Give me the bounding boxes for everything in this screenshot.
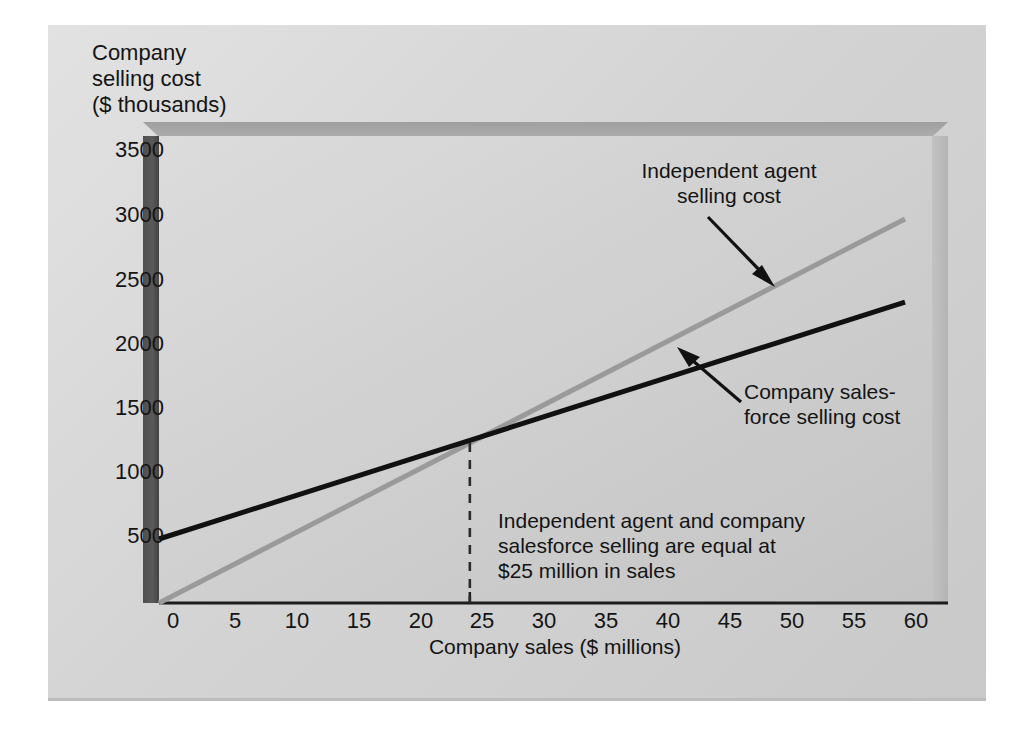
- x-tick-label: 40: [646, 608, 690, 634]
- x-tick-label: 45: [708, 608, 752, 634]
- figure-container: Company selling cost ($ thousands): [0, 0, 1017, 739]
- x-tick-label: 15: [337, 608, 381, 634]
- annotation-company-salesforce-label: Company sales- force selling cost: [744, 379, 974, 429]
- y-axis-title: Company selling cost ($ thousands): [92, 40, 332, 118]
- x-tick-label: 20: [399, 608, 443, 634]
- x-tick-label: 55: [832, 608, 876, 634]
- x-tick-label: 35: [584, 608, 628, 634]
- x-tick-label: 30: [522, 608, 566, 634]
- x-tick-label: 0: [151, 608, 195, 634]
- y-tick-label: 2500: [98, 267, 164, 293]
- x-tick-label: 5: [213, 608, 257, 634]
- y-tick-label: 1500: [98, 395, 164, 421]
- y-tick-label: 3500: [98, 137, 164, 163]
- y-tick-label: 3000: [98, 202, 164, 228]
- x-tick-label: 10: [275, 608, 319, 634]
- x-tick-label: 60: [894, 608, 938, 634]
- annotation-breakeven-note: Independent agent and company salesforce…: [498, 508, 868, 583]
- y-tick-label: 1000: [98, 459, 164, 485]
- y-tick-label: 2000: [98, 331, 164, 357]
- axes-group: [159, 592, 948, 603]
- annotation-independent-agent-label: Independent agent selling cost: [594, 158, 864, 208]
- x-axis-title: Company sales ($ millions): [160, 635, 950, 659]
- x-tick-label: 50: [770, 608, 814, 634]
- x-tick-label: 25: [460, 608, 504, 634]
- y-tick-label: 500: [98, 523, 164, 549]
